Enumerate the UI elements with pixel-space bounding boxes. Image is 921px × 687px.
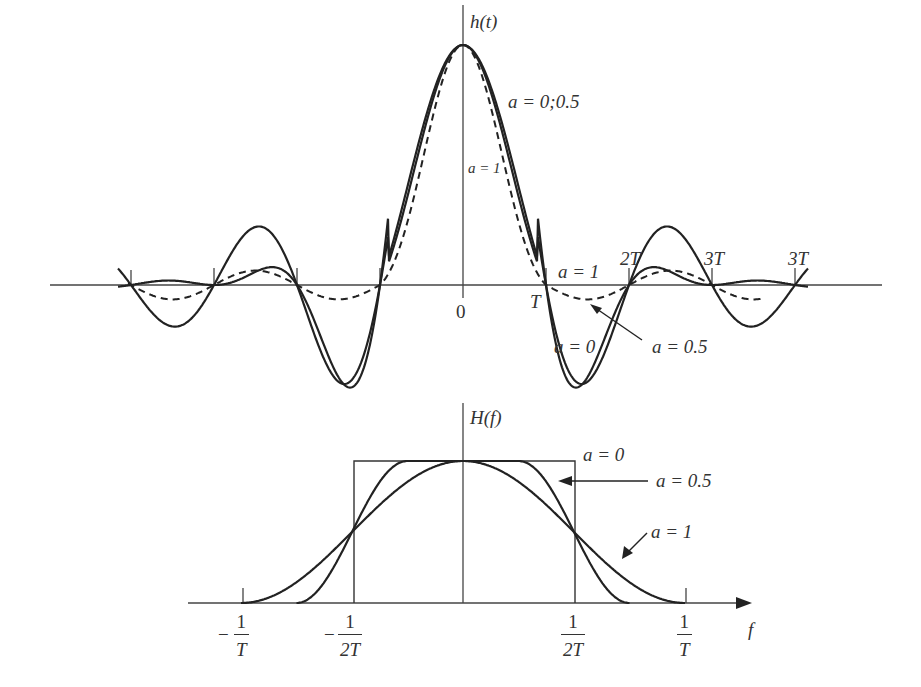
tick-label-1-over-T: 1T	[677, 612, 692, 659]
label-a05: a = 0.5	[656, 471, 712, 490]
label-a1: a = 1	[651, 522, 692, 541]
impulse-response-plot	[50, 5, 882, 388]
tick-label-3T-a: 3T	[704, 249, 724, 268]
label-a1-center: a = 1	[468, 161, 501, 176]
label-a1-right: a = 1	[558, 262, 599, 281]
H-axis-label: H(f)	[470, 408, 502, 427]
axis-arrow-icon	[736, 597, 752, 609]
arrow-head-icon	[558, 476, 572, 486]
label-a05: a = 0.5	[652, 337, 708, 356]
figure-canvas	[0, 0, 921, 687]
label-a0-05: a = 0;0.5	[508, 92, 579, 111]
tick-label-0: 0	[456, 302, 466, 321]
tick-sign: −	[324, 624, 335, 646]
tick-sign: −	[218, 624, 229, 646]
curve-a1	[128, 45, 763, 299]
tick-label-neg-1-over-2T: 12T	[338, 612, 362, 659]
f-axis-label: f	[748, 620, 753, 639]
h-axis-label: h(t)	[470, 12, 497, 31]
tick-label-neg-1-over-T: 1T	[234, 612, 249, 659]
tick-label-T: T	[530, 292, 541, 311]
arrow-a05	[594, 307, 642, 340]
spectrum-plot	[188, 403, 752, 609]
curve-a0-rect	[354, 461, 575, 603]
label-a0: a = 0	[583, 445, 624, 464]
label-a0: a = 0	[554, 337, 595, 356]
tick-label-3T-b: 3T	[788, 249, 808, 268]
tick-label-1-over-2T: 12T	[561, 612, 585, 659]
tick-label-2T: 2T	[620, 249, 640, 268]
arrow-head-icon	[590, 304, 602, 314]
arrow-a1	[627, 533, 647, 553]
